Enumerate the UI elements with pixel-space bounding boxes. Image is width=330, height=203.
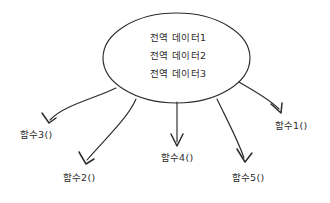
edge-to-함수2 (79, 99, 136, 164)
leaf-label-함수3[interactable]: 함수3() (20, 129, 53, 140)
edge-to-함수4 (171, 102, 183, 146)
leaf-label-함수1[interactable]: 함수1() (275, 120, 308, 131)
arrowhead-함수1 (271, 103, 282, 113)
leaf-label-함수4[interactable]: 함수4() (161, 152, 194, 163)
edge-line-함수2 (87, 99, 136, 160)
central-node-group[interactable]: 전역 데이터1 전역 데이터2 전역 데이터3 (103, 13, 250, 103)
arrowhead-함수3 (42, 113, 56, 123)
edge-line-함수3 (50, 88, 116, 120)
diagram-svg: 전역 데이터1 전역 데이터2 전역 데이터3 (0, 0, 330, 203)
edge-to-함수5 (217, 99, 252, 162)
edge-to-함수1 (239, 82, 282, 113)
central-node-line-2: 전역 데이터2 (150, 50, 207, 61)
arrowhead-함수5 (237, 149, 252, 162)
central-node-line-1: 전역 데이터1 (150, 32, 207, 43)
central-node-line-3: 전역 데이터3 (150, 68, 207, 79)
diagram-canvas: 전역 데이터1 전역 데이터2 전역 데이터3 (0, 0, 330, 203)
leaf-label-함수5[interactable]: 함수5() (232, 172, 265, 183)
edge-line-함수5 (217, 99, 244, 158)
leaf-label-함수2[interactable]: 함수2() (63, 172, 96, 183)
edge-to-함수3 (42, 88, 116, 123)
